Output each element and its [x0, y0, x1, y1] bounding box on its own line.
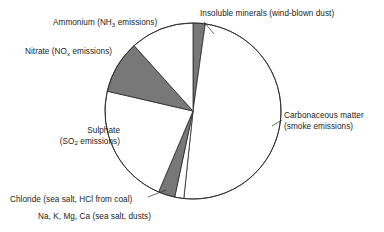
pie-chart-figure: Insoluble minerals (wind-blown dust) Amm… — [0, 0, 384, 232]
slice-label-chloride-text: Chloride (sea salt, HCl from coal) — [10, 195, 132, 204]
slice-label-ammonium: Ammonium (NH3 emissions) — [53, 18, 157, 29]
slice-label-chloride: Chloride (sea salt, HCl from coal) — [10, 195, 132, 206]
slice-label-sulphate-line2-main: (SO — [60, 137, 75, 146]
slice-label-sulphate-line2: (SO2 emissions) — [34, 137, 120, 148]
slice-label-carbonaceous-line1: Carbonaceous matter — [284, 111, 382, 122]
slice-label-nitrate: Nitrate (NOx emissions) — [25, 47, 112, 58]
sulphate-subscript: 2 — [75, 139, 79, 146]
slice-label-ammonium-text: Ammonium (NH — [53, 18, 112, 27]
slice-label-carbonaceous-line2: (smoke emissions) — [284, 122, 382, 133]
pie-slices-group — [105, 23, 281, 199]
slice-label-sulphate-line2-tail: emissions) — [78, 137, 120, 146]
slice-label-sulphate: Sulphate (SO2 emissions) — [34, 126, 120, 147]
ammonium-subscript: 3 — [112, 21, 116, 28]
slice-label-insoluble-minerals: Insoluble minerals (wind-blown dust) — [200, 9, 334, 20]
slice-label-carbonaceous-matter: Carbonaceous matter (smoke emissions) — [284, 111, 382, 132]
slice-label-na-k-mg-ca-text: Na, K, Mg, Ca (sea salt, dusts) — [38, 212, 151, 221]
slice-label-nitrate-tail: emissions) — [70, 47, 112, 56]
slice-label-insoluble-text: Insoluble minerals (wind-blown dust) — [200, 9, 334, 18]
slice-label-sulphate-line1: Sulphate — [34, 126, 120, 137]
slice-label-na-k-mg-ca: Na, K, Mg, Ca (sea salt, dusts) — [38, 212, 151, 223]
slice-label-ammonium-tail: emissions) — [115, 18, 157, 27]
slice-label-nitrate-text: Nitrate (NO — [25, 47, 67, 56]
nitrate-subscript: x — [67, 50, 70, 57]
